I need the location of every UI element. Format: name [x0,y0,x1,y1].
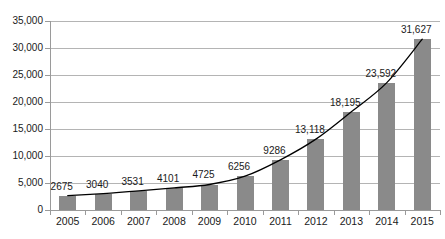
x-axis-tick-label: 2012 [296,216,336,227]
x-axis-tick-label: 2013 [331,216,371,227]
y-axis-tick-label: 10,000 [0,151,43,161]
x-axis-tick-label: 2014 [367,216,407,227]
bar [272,160,289,210]
x-axis-tick [369,210,370,215]
bar [201,185,218,211]
x-axis-tick-label: 2005 [48,216,88,227]
x-axis-tick [298,210,299,215]
x-axis-tick-label: 2011 [260,216,300,227]
y-axis-tick-label: 20,000 [0,97,43,107]
x-axis-tick [192,210,193,215]
x-axis-tick [121,210,122,215]
x-axis-tick [440,210,441,215]
bar [414,39,431,210]
y-axis-tick-label: 30,000 [0,43,43,53]
x-axis-tick [85,210,86,215]
bar-value-label: 3040 [78,180,116,190]
bar [343,112,360,210]
bar-value-label: 2675 [43,182,81,192]
y-axis-tick-label: 25,000 [0,70,43,80]
x-axis-tick [334,210,335,215]
x-axis-tick [263,210,264,215]
bar [166,188,183,210]
y-axis-tick-label: 15,000 [0,124,43,134]
x-axis-tick-label: 2010 [225,216,265,227]
x-axis-line [50,210,440,211]
x-axis-tick [405,210,406,215]
bar-value-label: 18,195 [326,98,364,108]
bar [378,83,395,210]
chart-container: 05,00010,00015,00020,00025,00030,00035,0… [0,0,445,239]
bar-value-label: 13,118 [291,125,329,135]
x-axis-tick-label: 2006 [83,216,123,227]
bar-value-label: 4101 [149,174,187,184]
x-axis-tick-label: 2015 [402,216,442,227]
x-axis-tick [156,210,157,215]
bar-value-label: 3531 [114,177,152,187]
bar-value-label: 4725 [185,170,223,180]
bar [95,194,112,210]
bar-value-label: 6256 [220,162,258,172]
bar [307,139,324,210]
x-axis-tick-label: 2007 [119,216,159,227]
bar [130,191,147,210]
x-axis-tick [227,210,228,215]
x-axis-tick-label: 2009 [190,216,230,227]
y-axis-tick-label: 0 [0,205,43,215]
bar [237,176,254,210]
x-axis-tick-label: 2008 [154,216,194,227]
y-axis-tick-label: 5,000 [0,178,43,188]
y-axis-tick-label: 35,000 [0,16,43,26]
bar [59,196,76,210]
bar-value-label: 9286 [255,146,293,156]
bar-value-label: 23,592 [362,69,400,79]
x-axis-tick [50,210,51,215]
bar-value-label: 31,627 [397,25,435,35]
